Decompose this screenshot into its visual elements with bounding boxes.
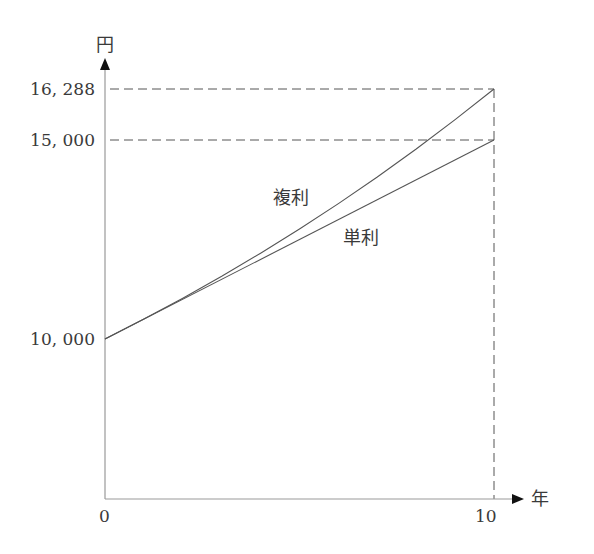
x-tick-10: 10 xyxy=(475,508,497,525)
x-axis-arrow-icon xyxy=(512,494,524,504)
y-tick-10000: 10, 000 xyxy=(5,331,95,348)
y-tick-15000: 15, 000 xyxy=(5,132,95,149)
y-axis-unit-label: 円 xyxy=(96,36,114,54)
simple-interest-label: 単利 xyxy=(343,229,379,247)
y-axis-arrow-icon xyxy=(100,58,110,70)
x-axis-unit-label: 年 xyxy=(531,490,549,508)
compound-interest-label: 複利 xyxy=(273,189,309,207)
y-tick-16288: 16, 288 xyxy=(5,81,95,98)
x-tick-0: 0 xyxy=(99,508,110,525)
compound-interest-curve xyxy=(105,89,494,339)
